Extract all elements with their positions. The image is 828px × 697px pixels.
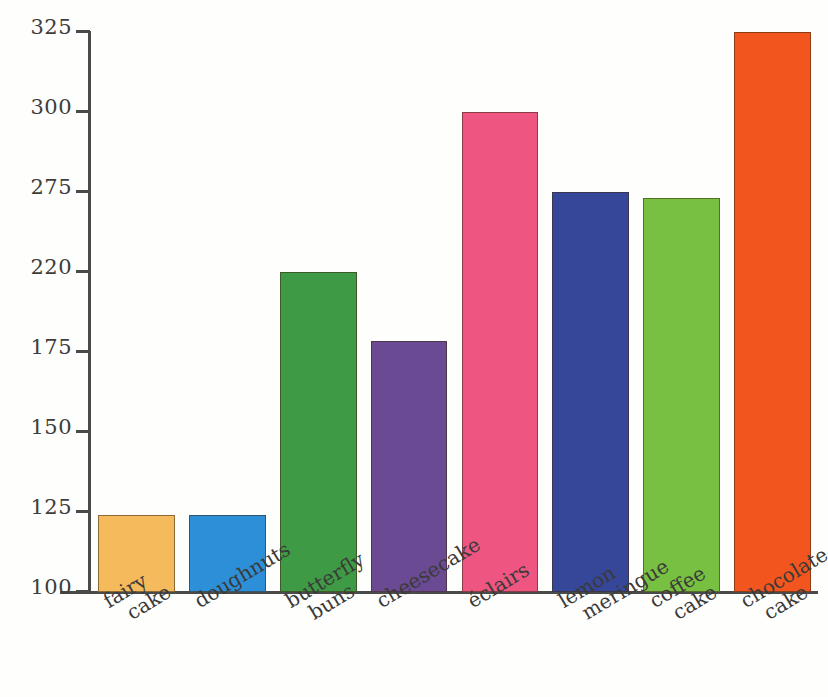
tick-mark-icon <box>76 270 90 273</box>
y-axis-tick-label: 125 <box>30 495 72 519</box>
tick-mark-icon <box>76 430 90 433</box>
tick-mark-icon <box>76 190 90 193</box>
y-axis-tick-label: 275 <box>30 175 72 199</box>
y-axis-tick-label: 325 <box>30 15 72 39</box>
tick-mark-icon <box>76 110 90 113</box>
tick-mark-icon <box>76 350 90 353</box>
y-axis-tick-label: 300 <box>30 95 72 119</box>
tick-mark-icon <box>76 590 90 593</box>
y-axis-tick-label: 175 <box>30 335 72 359</box>
y-axis-tick-label: 150 <box>30 415 72 439</box>
plot-area <box>91 31 818 592</box>
bar--clairs[interactable] <box>462 112 539 592</box>
bar-lemon-meringue[interactable] <box>552 192 629 592</box>
bar-chocolate-cake[interactable] <box>734 32 811 592</box>
x-axis-label-group: fairycakedoughnutsbutterflybunscheesecak… <box>0 594 828 697</box>
bar-chart: 325300275220175150125100 fairycakedoughn… <box>0 0 828 697</box>
y-axis-tick-label: 220 <box>30 255 72 279</box>
bar-coffee-cake[interactable] <box>643 198 720 592</box>
tick-mark-icon <box>76 30 90 33</box>
bar-butterfly-buns[interactable] <box>280 272 357 592</box>
tick-mark-icon <box>76 510 90 513</box>
